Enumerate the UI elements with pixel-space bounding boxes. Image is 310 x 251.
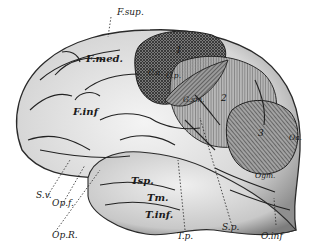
label-c-p: C.p. xyxy=(166,72,181,80)
label-t-p: T.p. xyxy=(177,232,193,241)
region-number-3: 3 xyxy=(258,129,264,138)
label-s-v: S.v. xyxy=(36,191,52,200)
label-f-med: F.med. xyxy=(86,54,123,64)
label-op-r: Op.R. xyxy=(52,231,78,240)
label-f-sup: F.sup. xyxy=(117,8,144,17)
label-oa: Oa. xyxy=(289,134,302,142)
label-op-f: Op.f. xyxy=(52,199,74,208)
label-o-inf: O.inf xyxy=(261,232,283,241)
label-c-a: C.a. xyxy=(148,69,163,77)
region-number-1: 1 xyxy=(176,46,182,55)
label-f-inf: F.inf xyxy=(73,107,98,117)
label-t-inf: T.inf. xyxy=(145,210,173,220)
label-s-p: S.p. xyxy=(222,223,239,232)
label-tm: Tm. xyxy=(147,193,169,203)
brain-diagram: F.sup. F.med. F.inf 1 C.a. C.p. G.sm. 2 … xyxy=(0,0,310,251)
label-g-sm: G.sm. xyxy=(183,96,204,104)
region-number-2: 2 xyxy=(221,94,227,103)
label-tsp: Tsp. xyxy=(131,176,154,186)
label-ogm: Ogm. xyxy=(255,172,275,180)
